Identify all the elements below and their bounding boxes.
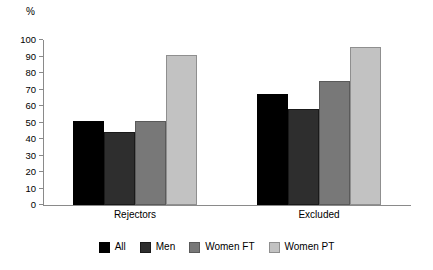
bar-chart: % 0102030405060708090100 RejectorsExclud… (0, 0, 433, 270)
legend-label: Men (156, 241, 175, 253)
chart-legend: AllMenWomen FTWomen PT (0, 241, 433, 253)
y-axis-tick-label: 70 (25, 84, 36, 95)
y-axis-tick: 10 (0, 183, 43, 194)
y-axis-tick: 100 (0, 34, 43, 45)
y-axis-tick-label: 40 (25, 133, 36, 144)
legend-label: Women FT (205, 241, 254, 253)
legend-item-women-ft: Women FT (189, 241, 254, 253)
y-axis-tick: 70 (0, 84, 43, 95)
bar-women-pt-rejectors (166, 55, 197, 205)
bar-men-excluded (288, 109, 319, 205)
y-axis-tick-label: 0 (31, 199, 36, 210)
y-axis-tick-label: 30 (25, 150, 36, 161)
y-axis-tick-label: 10 (25, 183, 36, 194)
legend-item-all: All (99, 241, 126, 253)
y-axis-tick: 30 (0, 150, 43, 161)
y-axis-tick: 50 (0, 117, 43, 128)
y-axis-tick: 60 (0, 100, 43, 111)
legend-swatch-icon (189, 242, 200, 253)
bar-men-rejectors (104, 132, 135, 205)
y-axis-tick: 80 (0, 67, 43, 78)
legend-label: All (115, 241, 126, 253)
legend-swatch-icon (269, 242, 280, 253)
bar-all-excluded (257, 94, 288, 205)
plot-area (43, 40, 411, 205)
bar-women-ft-excluded (319, 81, 350, 205)
legend-label: Women PT (285, 241, 335, 253)
y-axis-tick-label: 60 (25, 100, 36, 111)
x-axis-category-label: Rejectors (73, 209, 197, 221)
y-axis-tick: 20 (0, 166, 43, 177)
bar-women-ft-rejectors (135, 121, 166, 205)
y-axis-tick: 90 (0, 51, 43, 62)
x-axis-line (43, 205, 411, 206)
bar-women-pt-excluded (350, 47, 381, 205)
y-axis-tick: 0 (0, 199, 43, 210)
legend-swatch-icon (140, 242, 151, 253)
legend-item-men: Men (140, 241, 175, 253)
x-axis-category-label: Excluded (257, 209, 381, 221)
y-axis-tick: 40 (0, 133, 43, 144)
y-axis-tick-label: 50 (25, 117, 36, 128)
y-axis-tick-label: 20 (25, 166, 36, 177)
y-axis-tick-label: 100 (20, 34, 36, 45)
bar-all-rejectors (73, 121, 104, 205)
y-axis-unit-label: % (26, 6, 35, 17)
legend-item-women-pt: Women PT (269, 241, 335, 253)
legend-swatch-icon (99, 242, 110, 253)
y-axis-tick-label: 90 (25, 51, 36, 62)
y-axis-tick-label: 80 (25, 67, 36, 78)
